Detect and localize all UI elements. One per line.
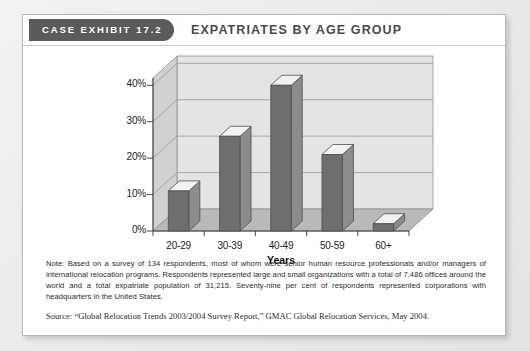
bar-chart xyxy=(23,46,505,251)
note-paragraph: Note: Based on a survey of 134 responden… xyxy=(46,258,486,302)
chart-container: 0%10%20%30%40%20-2930-3940-4950-5960+Yea… xyxy=(23,46,505,251)
plot-back-wall xyxy=(177,56,433,209)
bar-front-face xyxy=(373,224,393,231)
bar-front-face xyxy=(220,136,240,231)
source-paragraph: Source: “Global Relocation Trends 2003/2… xyxy=(46,311,486,322)
y-axis-tick-label: 0% xyxy=(98,224,146,235)
bar-side-face xyxy=(240,126,251,231)
x-axis-tick-label: 60+ xyxy=(353,240,413,251)
bar-front-face xyxy=(271,85,291,231)
exhibit-badge-label: CASE EXHIBIT xyxy=(42,24,131,35)
exhibit-header: CASE EXHIBIT17.2 EXPATRIATES BY AGE GROU… xyxy=(23,15,505,45)
y-axis-tick-label: 30% xyxy=(98,115,146,126)
exhibit-notes: Note: Based on a survey of 134 responden… xyxy=(46,258,486,322)
bar-front-face xyxy=(322,155,342,232)
case-exhibit-card: CASE EXHIBIT17.2 EXPATRIATES BY AGE GROU… xyxy=(22,14,506,336)
page-root: CASE EXHIBIT17.2 EXPATRIATES BY AGE GROU… xyxy=(0,0,530,351)
bar-front-face xyxy=(168,191,188,231)
bar-side-face xyxy=(291,75,302,231)
exhibit-title: EXPATRIATES BY AGE GROUP xyxy=(191,19,402,41)
bar-side-face xyxy=(342,145,353,232)
exhibit-badge-number: 17.2 xyxy=(136,24,162,35)
y-axis-tick-label: 10% xyxy=(98,188,146,199)
y-axis-tick-label: 20% xyxy=(98,151,146,162)
exhibit-badge: CASE EXHIBIT17.2 xyxy=(29,19,174,41)
y-axis-tick-label: 40% xyxy=(98,78,146,89)
